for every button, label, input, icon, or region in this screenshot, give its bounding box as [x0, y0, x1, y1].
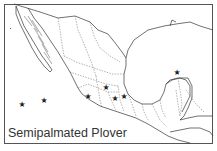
- star-icon: ★: [173, 69, 180, 77]
- us-gulf-coast: [126, 22, 213, 58]
- baja-peninsula: [16, 6, 52, 72]
- star-icon: ★: [120, 93, 127, 101]
- pacific-coast: [28, 8, 190, 143]
- star-icon: ★: [102, 84, 109, 92]
- star-icon: ★: [111, 95, 118, 103]
- star-icon: ★: [18, 101, 25, 109]
- central-america-coast: [180, 116, 213, 120]
- gulf-coast: [124, 58, 190, 112]
- central-america-south: [170, 128, 213, 136]
- island: [10, 28, 11, 29]
- star-icon: ★: [40, 97, 47, 105]
- species-label: Semipalmated Plover: [8, 126, 127, 140]
- star-icon: ★: [84, 93, 91, 101]
- state-borders: [58, 16, 180, 126]
